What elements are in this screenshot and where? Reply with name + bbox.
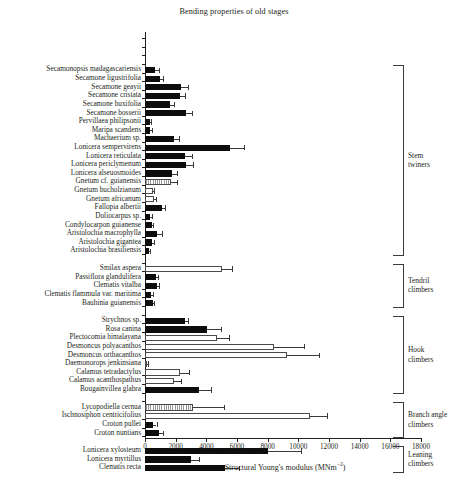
- error-bar-cap: [193, 162, 194, 167]
- x-tick: [145, 438, 146, 442]
- bar: [145, 430, 159, 436]
- bar: [145, 404, 193, 410]
- y-tick: [142, 306, 146, 307]
- error-bar-cap: [158, 275, 159, 280]
- x-tick: [176, 438, 177, 442]
- error-bar-cap: [151, 119, 152, 124]
- error-bar-cap: [188, 85, 189, 90]
- group-bracket-label: Stemtwiners: [408, 151, 430, 169]
- error-bar-cap: [157, 422, 158, 427]
- error-bar: [192, 407, 224, 408]
- bar: [145, 101, 170, 107]
- error-bar: [173, 381, 181, 382]
- y-axis-label: Pervillaea philipsonii: [79, 117, 141, 125]
- error-bar-cap: [150, 249, 151, 254]
- group-bracket-label: Hookclimbers: [408, 345, 433, 363]
- bar: [145, 76, 160, 82]
- bar: [145, 335, 217, 341]
- bar: [145, 153, 185, 159]
- error-bar-cap: [244, 145, 245, 150]
- bar: [145, 136, 174, 142]
- y-tick: [142, 159, 146, 160]
- error-bar: [184, 156, 192, 157]
- bar: [145, 318, 185, 324]
- error-bar-cap: [152, 128, 153, 133]
- bar: [145, 378, 174, 384]
- bar: [145, 239, 152, 245]
- bar: [145, 145, 230, 151]
- error-bar-cap: [179, 136, 180, 141]
- y-axis-label: Croton nuntians: [94, 429, 141, 437]
- y-tick: [142, 237, 146, 238]
- bar: [145, 369, 180, 375]
- error-bar-cap: [174, 102, 175, 107]
- group-bracket: [393, 402, 404, 437]
- x-tick: [329, 438, 330, 442]
- bar: [145, 387, 199, 393]
- y-tick: [142, 64, 146, 65]
- bar: [145, 179, 171, 185]
- y-tick: [142, 55, 146, 56]
- y-tick: [142, 436, 146, 437]
- error-bar-cap: [154, 240, 155, 245]
- error-bar: [286, 355, 319, 356]
- error-bar: [229, 148, 244, 149]
- bar: [145, 352, 287, 358]
- y-tick: [142, 150, 146, 151]
- group-bracket: [393, 264, 404, 308]
- error-bar: [273, 347, 305, 348]
- bar: [145, 248, 149, 254]
- y-tick: [142, 289, 146, 290]
- y-tick: [142, 116, 146, 117]
- bar: [145, 205, 162, 211]
- bar: [145, 361, 147, 367]
- x-tick: [390, 438, 391, 442]
- bar: [145, 67, 155, 73]
- error-bar-cap: [327, 413, 328, 418]
- error-bar-cap: [154, 188, 155, 193]
- bar: [145, 84, 181, 90]
- error-bar: [198, 390, 211, 391]
- y-axis-label: Aristolochia brasiliensis: [70, 246, 141, 254]
- y-axis-label: Secamone buxifolia: [83, 100, 141, 108]
- page-title: Bending properties of old stages: [0, 7, 468, 16]
- error-bar-cap: [185, 93, 186, 98]
- x-tick: [268, 438, 269, 442]
- error-bar-cap: [192, 111, 193, 116]
- y-tick: [142, 73, 146, 74]
- y-tick: [142, 401, 146, 402]
- y-tick: [142, 98, 146, 99]
- y-tick: [142, 419, 146, 420]
- y-tick: [142, 219, 146, 220]
- bar: [145, 170, 172, 176]
- y-tick: [142, 271, 146, 272]
- y-tick: [142, 254, 146, 255]
- error-bar: [180, 87, 188, 88]
- error-bar: [206, 329, 221, 330]
- error-bar-cap: [177, 171, 178, 176]
- y-axis-label: Gnetum bucholzianum: [74, 186, 141, 194]
- bar: [145, 266, 222, 272]
- y-axis-label: Croton pullei: [102, 420, 141, 428]
- y-tick: [142, 142, 146, 143]
- y-axis-label: Lonicera xylosteum: [83, 446, 141, 454]
- group-bracket-label: Branch angleclimbers: [408, 410, 447, 428]
- error-bar-cap: [156, 197, 157, 202]
- bar: [145, 93, 180, 99]
- error-bar-cap: [153, 292, 154, 297]
- y-tick: [142, 81, 146, 82]
- y-axis-label: Bauhinia guianensis: [82, 299, 141, 307]
- bar: [145, 214, 150, 220]
- y-tick: [142, 211, 146, 212]
- x-tick: [237, 438, 238, 442]
- group-bracket: [393, 316, 404, 395]
- error-bar-cap: [163, 431, 164, 436]
- bar: [145, 188, 153, 194]
- bar: [145, 127, 150, 133]
- error-bar-cap: [319, 353, 320, 358]
- error-bar-cap: [224, 405, 225, 410]
- bar: [145, 344, 274, 350]
- error-bar-cap: [229, 335, 230, 340]
- group-bracket-label: Tendrilclimbers: [408, 276, 433, 294]
- plot-area: [145, 32, 421, 438]
